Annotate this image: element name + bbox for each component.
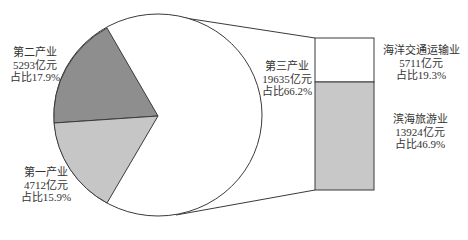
label-value: 4712亿元 bbox=[21, 179, 71, 192]
label-marine-shipping: 海洋交通运输业 5711亿元 占比19.3% bbox=[383, 44, 460, 82]
label-primary-industry: 第一产业 4712亿元 占比15.9% bbox=[21, 166, 71, 204]
label-value: 19635亿元 bbox=[262, 73, 312, 86]
label-name: 滨海旅游业 bbox=[393, 113, 448, 126]
label-percent: 占比17.9% bbox=[10, 71, 60, 84]
label-tertiary-industry: 第三产业 19635亿元 占比66.2% bbox=[262, 60, 312, 98]
bar-segment-tourism bbox=[315, 82, 374, 190]
bar-segment-shipping bbox=[315, 38, 374, 82]
label-name: 第二产业 bbox=[10, 46, 60, 59]
label-percent: 占比15.9% bbox=[21, 191, 71, 204]
label-name: 第一产业 bbox=[21, 166, 71, 179]
label-name: 海洋交通运输业 bbox=[383, 44, 460, 57]
label-secondary-industry: 第二产业 5293亿元 占比17.9% bbox=[10, 46, 60, 84]
label-percent: 占比19.3% bbox=[383, 69, 460, 82]
label-value: 5293亿元 bbox=[10, 59, 60, 72]
label-percent: 占比66.2% bbox=[262, 85, 312, 98]
label-name: 第三产业 bbox=[262, 60, 312, 73]
label-value: 5711亿元 bbox=[383, 57, 460, 70]
label-percent: 占比46.9% bbox=[393, 138, 448, 151]
label-value: 13924亿元 bbox=[393, 126, 448, 139]
label-coastal-tourism: 滨海旅游业 13924亿元 占比46.9% bbox=[393, 113, 448, 151]
